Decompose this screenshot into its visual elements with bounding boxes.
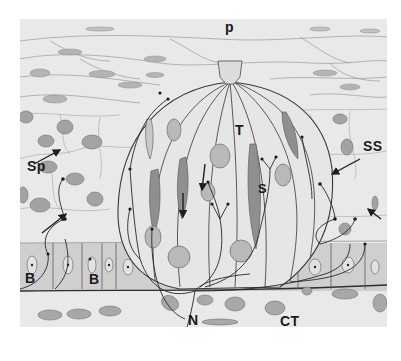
connective-tissue-nuclei <box>38 287 387 325</box>
label-pore: p <box>225 20 234 34</box>
label-taste-cell: T <box>235 123 244 137</box>
taste-bud-illustration: p T S Sp SS B B N CT <box>20 19 387 327</box>
label-basal-mid: B <box>89 272 100 286</box>
label-nerve: N <box>188 313 199 327</box>
label-ss: SS <box>363 139 383 153</box>
label-connective-tissue: CT <box>280 314 300 327</box>
illustration-canvas <box>20 19 387 327</box>
taste-bud <box>118 61 333 289</box>
label-basal-left: B <box>25 271 36 285</box>
label-sp: Sp <box>27 159 46 173</box>
label-sustentacular-cell: S <box>258 182 267 195</box>
